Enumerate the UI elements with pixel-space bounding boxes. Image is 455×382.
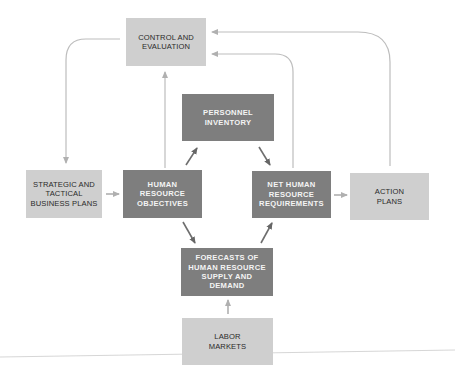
node-label: HUMAN RESOURCE OBJECTIVES [137, 180, 188, 208]
node-net-hr-requirements: NET HUMAN RESOURCE REQUIREMENTS [252, 171, 331, 218]
edge-control-to-strategic [66, 39, 120, 163]
node-personnel-inventory: PERSONNEL INVENTORY [182, 94, 274, 141]
node-strategic-business-plans: STRATEGIC AND TACTICAL BUSINESS PLANS [26, 170, 102, 218]
edge-hr-objectives-to-forecasts [183, 222, 195, 243]
node-label: ACTION PLANS [375, 187, 404, 206]
edge-hr-objectives-to-personnel [186, 148, 197, 165]
node-label: PERSONNEL INVENTORY [203, 108, 253, 127]
node-label: LABOR MARKETS [209, 332, 246, 351]
node-action-plans: ACTION PLANS [350, 173, 429, 220]
node-label: FORECASTS OF HUMAN RESOURCE SUPPLY AND D… [188, 253, 266, 291]
edge-personnel-to-net-hr [259, 147, 270, 165]
node-hr-objectives: HUMAN RESOURCE OBJECTIVES [123, 170, 202, 218]
node-label: NET HUMAN RESOURCE REQUIREMENTS [259, 180, 324, 208]
edge-forecasts-to-net-hr [261, 223, 272, 243]
node-control-and-evaluation: CONTROL AND EVALUATION [126, 18, 206, 66]
node-forecasts: FORECASTS OF HUMAN RESOURCE SUPPLY AND D… [181, 248, 273, 296]
node-label: STRATEGIC AND TACTICAL BUSINESS PLANS [31, 180, 98, 208]
node-label: CONTROL AND EVALUATION [138, 33, 194, 52]
node-labor-markets: LABOR MARKETS [182, 318, 273, 365]
